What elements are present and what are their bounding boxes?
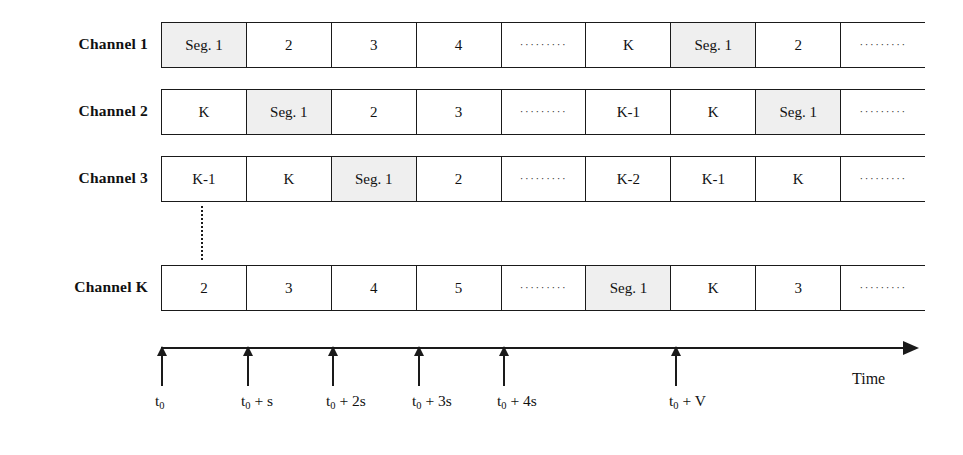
time-axis-tick-label: t0 + V	[669, 392, 706, 410]
time-axis-tick-arrow-icon	[243, 346, 253, 356]
channel-label: Channel 2	[0, 102, 148, 120]
time-axis-tick-label: t0	[155, 392, 165, 410]
segment-cell: K	[755, 156, 840, 202]
channel-row: 2345·········Seg. 1K3·········	[161, 265, 925, 311]
segment-cell: K	[246, 156, 331, 202]
segment-cell: 2	[755, 22, 840, 68]
time-axis-tick-label: t0 + 2s	[326, 392, 366, 410]
segment-cell: K	[585, 22, 670, 68]
time-axis-tick-arrow-icon	[671, 346, 681, 356]
tick-label-offset: + V	[679, 392, 706, 409]
time-axis-line	[161, 347, 907, 349]
segment-cell-ellipsis: ·········	[501, 156, 586, 202]
channel-segment-timing-diagram: Channel 1Seg. 1234·········KSeg. 12·····…	[0, 0, 963, 455]
channel-row: Seg. 1234·········KSeg. 12·········	[161, 22, 925, 68]
segment-cell: 3	[331, 22, 416, 68]
segment-cell-ellipsis: ·········	[501, 265, 586, 311]
segment-cell: 2	[161, 265, 246, 311]
time-axis-tick-arrow-icon	[499, 346, 509, 356]
segment-cell: 2	[416, 156, 501, 202]
segment-cell: 4	[331, 265, 416, 311]
segment-cell: 3	[755, 265, 840, 311]
tick-label-offset: + 3s	[422, 392, 452, 409]
segment-cell: 2	[246, 22, 331, 68]
segment-cell: Seg. 1	[585, 265, 670, 311]
tick-label-offset: + 2s	[336, 392, 366, 409]
segment-cell: Seg. 1	[161, 22, 246, 68]
segment-cell-ellipsis: ·········	[840, 22, 925, 68]
segment-cell: 3	[416, 89, 501, 135]
segment-cell: 2	[331, 89, 416, 135]
segment-cell: K	[161, 89, 246, 135]
segment-cell: 3	[246, 265, 331, 311]
tick-label-subscript: 0	[245, 400, 250, 411]
tick-label-subscript: 0	[330, 400, 335, 411]
channel-label: Channel 1	[0, 35, 148, 53]
time-axis-tick-arrow-icon	[328, 346, 338, 356]
segment-cell: 4	[416, 22, 501, 68]
segment-cell: Seg. 1	[670, 22, 755, 68]
tick-label-offset: + 4s	[507, 392, 537, 409]
tick-label-subscript: 0	[501, 400, 506, 411]
segment-cell-ellipsis: ·········	[840, 89, 925, 135]
tick-label-offset: + s	[251, 392, 274, 409]
time-axis-arrowhead-icon	[903, 341, 919, 355]
channel-label: Channel 3	[0, 169, 148, 187]
segment-cell: K-2	[585, 156, 670, 202]
channel-label: Channel K	[0, 278, 148, 296]
segment-cell: K-1	[670, 156, 755, 202]
segment-cell: K	[670, 265, 755, 311]
segment-cell-ellipsis: ·········	[840, 265, 925, 311]
segment-cell: K-1	[161, 156, 246, 202]
segment-cell: 5	[416, 265, 501, 311]
channel-row: KSeg. 123·········K-1KSeg. 1·········	[161, 89, 925, 135]
segment-cell-ellipsis: ·········	[501, 22, 586, 68]
time-axis-tick-arrow-icon	[414, 346, 424, 356]
time-axis-label: Time	[852, 370, 885, 388]
segment-cell: Seg. 1	[755, 89, 840, 135]
time-axis-tick-label: t0 + 3s	[412, 392, 452, 410]
vertical-continuation-dots	[201, 206, 203, 260]
tick-label-subscript: 0	[159, 400, 164, 411]
tick-label-subscript: 0	[673, 400, 678, 411]
time-axis-tick-label: t0 + 4s	[497, 392, 537, 410]
tick-label-subscript: 0	[416, 400, 421, 411]
segment-cell: K	[670, 89, 755, 135]
segment-cell-ellipsis: ·········	[840, 156, 925, 202]
time-axis-tick-label: t0 + s	[241, 392, 273, 410]
segment-cell: Seg. 1	[246, 89, 331, 135]
segment-cell: Seg. 1	[331, 156, 416, 202]
channel-row: K-1KSeg. 12·········K-2K-1K·········	[161, 156, 925, 202]
segment-cell: K-1	[585, 89, 670, 135]
time-axis-tick-arrow-icon	[157, 346, 167, 356]
segment-cell-ellipsis: ·········	[501, 89, 586, 135]
